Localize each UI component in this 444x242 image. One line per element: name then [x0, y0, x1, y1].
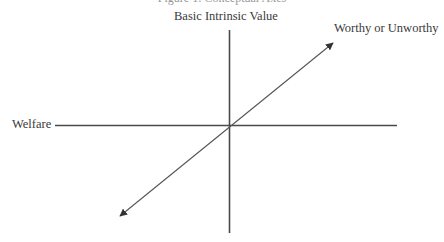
diagonal-axis-arrow [120, 43, 333, 216]
axes-diagram [0, 0, 444, 242]
